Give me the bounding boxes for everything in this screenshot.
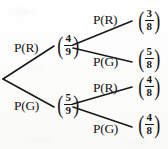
node-probability-red-red: ( 3 8 ) [137,8,162,33]
fraction-stack: 4 9 [64,33,73,58]
edge-label-red-red: P(R) [93,13,117,27]
node-probability-red-green: ( 5 8 ) [137,46,162,71]
fraction-denominator: 8 [146,59,154,70]
paren-open-icon: ( [57,36,63,56]
paren-close-icon: ) [154,11,160,31]
fraction-stack: 5 9 [64,92,73,117]
node-probability-green-green: ( 4 8 ) [137,112,162,137]
probability-tree-diagram: P(R) P(G) ( 4 9 ) ( 5 9 ) P(R) P(G) P(R)… [0,0,168,149]
node-probability-green-first: ( 5 9 ) [56,92,81,117]
fraction-denominator: 8 [146,21,154,32]
fraction-numerator: 4 [65,33,73,44]
fraction-stack: 4 8 [145,74,154,99]
fraction-numerator: 5 [146,46,154,57]
paren-close-icon: ) [73,36,79,56]
fraction-numerator: 4 [146,112,154,123]
fraction-stack: 3 8 [145,8,154,33]
paren-open-icon: ( [138,49,144,69]
fraction-denominator: 8 [146,125,154,136]
paren-close-icon: ) [154,49,160,69]
paren-open-icon: ( [138,11,144,31]
fraction-stack: 5 8 [145,46,154,71]
node-probability-green-red: ( 4 8 ) [137,74,162,99]
fraction-denominator: 8 [146,87,154,98]
fraction-numerator: 3 [146,8,154,19]
paren-close-icon: ) [154,115,160,135]
paren-close-icon: ) [154,77,160,97]
fraction-denominator: 9 [65,105,73,116]
paren-close-icon: ) [73,95,79,115]
edge-label-green-green: P(G) [93,122,118,136]
edge-label-root-green: P(G) [14,99,39,113]
fraction-denominator: 9 [65,46,73,57]
paren-open-icon: ( [57,95,63,115]
node-probability-red-first: ( 4 9 ) [56,33,81,58]
fraction-stack: 4 8 [145,112,154,137]
edge-label-root-red: P(R) [14,41,38,55]
edge-label-red-green: P(G) [93,55,118,69]
edge-label-green-red: P(R) [93,81,117,95]
paren-open-icon: ( [138,115,144,135]
fraction-numerator: 4 [146,74,154,85]
fraction-numerator: 5 [65,92,73,103]
paren-open-icon: ( [138,77,144,97]
